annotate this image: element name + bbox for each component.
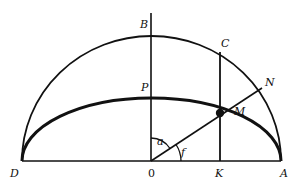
label-K: K xyxy=(215,168,223,179)
label-D: D xyxy=(10,168,19,179)
label-N: N xyxy=(265,77,275,88)
label-a: a xyxy=(157,136,164,147)
label-M: M xyxy=(234,106,245,117)
point-M-dot xyxy=(216,109,224,117)
label-A: A xyxy=(280,168,288,179)
diagram-canvas: B P C N M a f D 0 K A xyxy=(0,0,301,186)
label-P: P xyxy=(141,82,148,93)
label-C: C xyxy=(221,38,229,49)
label-B: B xyxy=(140,19,148,30)
label-O: 0 xyxy=(148,168,155,179)
label-f: f xyxy=(181,147,185,158)
geometry-figure xyxy=(0,0,301,186)
